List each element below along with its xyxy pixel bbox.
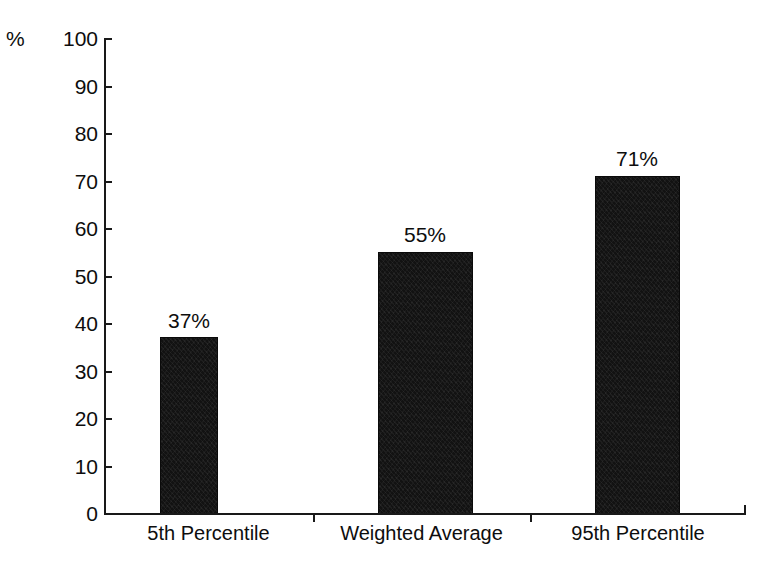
y-tick-label-0: 0 (0, 503, 98, 524)
x-category-label-95th-percentile: 95th Percentile (530, 521, 746, 545)
y-tick-label-text: 50 (75, 266, 98, 287)
y-tick-label-text: 60 (75, 218, 98, 239)
y-axis-tick (104, 276, 112, 278)
y-axis-tick (104, 323, 112, 325)
y-tick-label-text: 80 (75, 123, 98, 144)
bar-chart: % 100 90 80 70 60 50 40 30 20 10 0 (0, 0, 769, 569)
x-category-label-5th-percentile: 5th Percentile (104, 521, 313, 545)
y-tick-label-60: 60 (0, 218, 98, 239)
y-tick-label-30: 30 (0, 361, 98, 382)
y-tick-label-text: 90 (75, 76, 98, 97)
y-tick-label-10: 10 (0, 456, 98, 477)
x-axis-line (104, 513, 746, 515)
y-tick-label-text: 100 (63, 28, 98, 49)
y-axis-tick (104, 466, 112, 468)
y-tick-label-90: 90 (0, 76, 98, 97)
y-tick-label-50: 50 (0, 266, 98, 287)
y-axis-tick (104, 371, 112, 373)
y-axis-tick (104, 418, 112, 420)
y-axis-tick (104, 86, 112, 88)
bar-value-label-95th-percentile: 71% (577, 148, 697, 169)
y-tick-label-text: 20 (75, 408, 98, 429)
x-category-label-weighted-average: Weighted Average (313, 521, 530, 545)
bar-value-label-weighted-average: 55% (365, 224, 485, 245)
y-axis-tick (104, 181, 112, 183)
y-axis-tick (104, 228, 112, 230)
y-tick-label-text: 30 (75, 361, 98, 382)
y-tick-label-40: 40 (0, 313, 98, 334)
y-tick-label-text: 40 (75, 313, 98, 334)
y-tick-label-70: 70 (0, 171, 98, 192)
y-tick-label-80: 80 (0, 123, 98, 144)
y-tick-label-text: 0 (86, 503, 98, 524)
y-tick-label-100: 100 (0, 28, 98, 49)
y-tick-label-text: 70 (75, 171, 98, 192)
bar-95th-percentile (595, 176, 680, 514)
y-tick-label-20: 20 (0, 408, 98, 429)
x-axis-end-cap (744, 505, 746, 514)
y-axis-tick (104, 38, 112, 40)
bar-5th-percentile (160, 337, 218, 514)
bar-value-label-5th-percentile: 37% (129, 310, 249, 331)
y-axis-tick (104, 133, 112, 135)
y-tick-label-text: 10 (75, 456, 98, 477)
bar-weighted-average (378, 252, 473, 514)
